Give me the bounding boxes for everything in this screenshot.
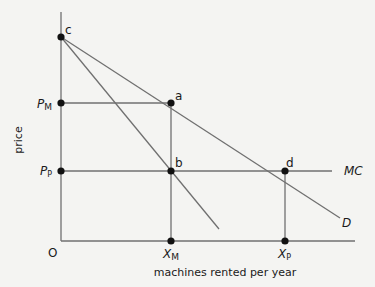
origin-label: O (48, 246, 57, 260)
diagram-canvas: c a b d PM PP XM XP O MC D price machine… (0, 0, 375, 287)
label-xp: XP (277, 247, 291, 262)
label-c: c (65, 23, 72, 37)
point-pp (57, 167, 64, 174)
label-pm: PM (37, 97, 52, 112)
label-xm: XM (162, 247, 179, 262)
point-b (167, 167, 174, 174)
label-d-curve: D (342, 216, 351, 230)
label-pp: PP (40, 164, 52, 179)
label-d: d (286, 156, 294, 170)
marginal-revenue-curve (61, 37, 219, 229)
point-xp (281, 237, 288, 244)
point-c (57, 33, 64, 40)
monopoly-diagram: c a b d PM PP XM XP O MC D price machine… (0, 0, 375, 287)
x-axis-title: machines rented per year (154, 266, 297, 279)
label-b: b (175, 156, 183, 170)
y-axis-title: price (12, 126, 25, 154)
point-xm (167, 237, 174, 244)
label-mc: MC (344, 164, 363, 178)
point-a (167, 99, 174, 106)
label-a: a (175, 89, 182, 103)
demand-curve (61, 37, 340, 218)
point-pm (57, 99, 64, 106)
